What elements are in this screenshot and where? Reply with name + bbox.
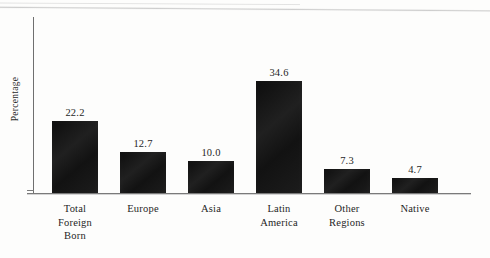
x-axis-category-label: TotalForeignBorn [39,202,111,243]
category-label-line: Europe [107,202,179,216]
x-axis-category-label: LatinAmerica [243,202,315,229]
bar[interactable] [256,81,302,193]
bar[interactable] [188,161,234,193]
category-label-line: Other [311,202,383,216]
bar-value-label: 4.7 [408,164,422,175]
category-label-line: Foreign [39,216,111,230]
category-label-line: America [243,216,315,230]
bar[interactable] [324,169,370,193]
bar-group: 4.7 [392,178,438,193]
bar-value-label: 34.6 [269,67,288,78]
category-label-line: Total [39,202,111,216]
category-label-line: Regions [311,216,383,230]
bar-value-label: 10.0 [201,147,220,158]
category-label-line: Asia [175,202,247,216]
bar-group: 7.3 [324,169,370,193]
category-label-line: Native [379,202,451,216]
x-axis-category-label: Asia [175,202,247,216]
bar-group: 22.2 [52,121,98,193]
bar-value-label: 12.7 [133,138,152,149]
bar[interactable] [52,121,98,193]
x-axis-category-label: OtherRegions [311,202,383,229]
bar-group: 10.0 [188,161,234,193]
bar-chart-figure: Percentage 22.2TotalForeignBorn12.7Europ… [0,0,490,258]
bar[interactable] [120,152,166,193]
bar-value-label: 22.2 [65,107,84,118]
bar[interactable] [392,178,438,193]
bar-group: 34.6 [256,81,302,193]
category-label-line: Born [39,229,111,243]
bar-value-label: 7.3 [340,155,354,166]
x-axis-category-label: Europe [107,202,179,216]
bars-layer: 22.2TotalForeignBorn12.7Europe10.0Asia34… [0,0,490,258]
bar-group: 12.7 [120,152,166,193]
x-axis-category-label: Native [379,202,451,216]
category-label-line: Latin [243,202,315,216]
